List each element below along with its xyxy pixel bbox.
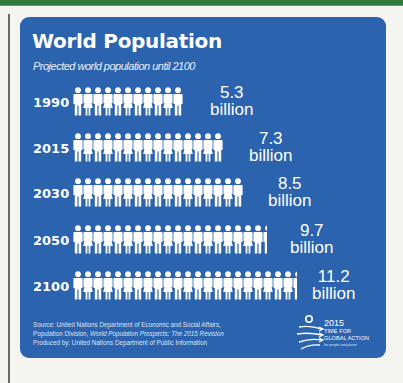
person-male-icon: [213, 271, 223, 300]
source-line-1: Source: United Nations Department of Eco…: [33, 320, 224, 329]
person-female-icon: [123, 133, 133, 162]
person-male-icon: [93, 271, 103, 300]
person-female-icon: [163, 133, 173, 162]
person-male-icon: [193, 133, 203, 162]
person-female-icon: [223, 225, 233, 254]
person-male-icon: [113, 178, 123, 207]
source-credit: Source: United Nations Department of Eco…: [33, 320, 224, 347]
person-male-icon: [113, 87, 123, 116]
person-female-icon: [103, 178, 113, 207]
person-male-icon: [193, 271, 203, 300]
person-icon-bar: [73, 224, 267, 254]
person-partial-icon: [263, 225, 267, 254]
person-male-icon: [173, 87, 183, 116]
logo-text: 2015 TIME FOR GLOBAL ACTION for people a…: [324, 318, 369, 349]
person-female-icon: [83, 271, 93, 300]
person-female-icon: [103, 87, 113, 116]
person-female-icon: [143, 178, 153, 207]
person-female-icon: [183, 271, 193, 300]
person-female-icon: [243, 271, 253, 300]
value-number: 7.3: [249, 130, 292, 147]
year-label: 2030: [33, 186, 69, 201]
person-female-icon: [103, 133, 113, 162]
chart-subtitle: Projected world population until 2100: [33, 60, 195, 72]
person-male-icon: [93, 225, 103, 254]
value-label: 5.3 billion: [210, 84, 253, 118]
person-male-icon: [233, 178, 243, 207]
source-line-2: Population Division, World Population Pr…: [33, 329, 224, 338]
person-icon-bar: [73, 177, 243, 207]
logo-line-2: GLOBAL ACTION: [324, 335, 369, 342]
person-female-icon: [83, 133, 93, 162]
person-female-icon: [183, 225, 193, 254]
value-number: 8.5: [268, 175, 311, 192]
source-line-3: Produced by: United Nations Department o…: [33, 338, 224, 347]
year-label: 1990: [33, 95, 69, 110]
person-female-icon: [123, 271, 133, 300]
value-label: 9.7 billion: [290, 222, 333, 256]
person-female-icon: [223, 178, 233, 207]
person-female-icon: [83, 178, 93, 207]
person-male-icon: [213, 225, 223, 254]
person-icon-bar: [73, 132, 223, 162]
value-number: 5.3: [210, 84, 253, 101]
person-icon-bar: [73, 270, 297, 300]
source-publication-title: World Population Prospects: The 2015 Rev…: [90, 330, 224, 337]
person-male-icon: [133, 271, 143, 300]
person-female-icon: [283, 271, 293, 300]
value-number: 9.7: [290, 222, 333, 239]
person-male-icon: [173, 133, 183, 162]
person-male-icon: [113, 133, 123, 162]
person-female-icon: [143, 271, 153, 300]
person-male-icon: [153, 225, 163, 254]
person-male-icon: [153, 87, 163, 116]
person-male-icon: [113, 225, 123, 254]
source-line-2-prefix: Population Division,: [33, 330, 90, 337]
person-icon-bar: [73, 86, 183, 116]
person-female-icon: [163, 178, 173, 207]
person-male-icon: [73, 178, 83, 207]
global-action-logo: 2015 TIME FOR GLOBAL ACTION for people a…: [296, 312, 384, 356]
person-female-icon: [203, 271, 213, 300]
person-partial-icon: [293, 271, 297, 300]
person-male-icon: [133, 225, 143, 254]
person-male-icon: [153, 133, 163, 162]
chart-title: World Population: [32, 29, 222, 53]
person-female-icon: [83, 87, 93, 116]
person-male-icon: [233, 225, 243, 254]
value-unit: billion: [268, 192, 311, 209]
value-number: 11.2: [312, 268, 355, 285]
person-female-icon: [183, 133, 193, 162]
person-male-icon: [253, 271, 263, 300]
value-label: 11.2 billion: [312, 268, 355, 302]
person-male-icon: [173, 225, 183, 254]
person-male-icon: [73, 133, 83, 162]
value-unit: billion: [249, 147, 292, 164]
year-label: 2050: [33, 233, 69, 248]
person-female-icon: [103, 225, 113, 254]
person-female-icon: [143, 87, 153, 116]
person-male-icon: [233, 271, 243, 300]
person-male-icon: [93, 133, 103, 162]
person-female-icon: [183, 178, 193, 207]
logo-tagline: for people and planet: [324, 342, 369, 349]
top-border-bar: [0, 0, 403, 6]
person-female-icon: [123, 178, 133, 207]
person-female-icon: [163, 271, 173, 300]
person-male-icon: [133, 133, 143, 162]
logo-year: 2015: [324, 318, 369, 328]
person-male-icon: [253, 225, 263, 254]
person-female-icon: [203, 178, 213, 207]
value-unit: billion: [290, 239, 333, 256]
person-male-icon: [213, 178, 223, 207]
person-female-icon: [123, 225, 133, 254]
person-female-icon: [83, 225, 93, 254]
person-male-icon: [73, 87, 83, 116]
year-label: 2100: [33, 279, 69, 294]
person-female-icon: [223, 271, 233, 300]
person-male-icon: [213, 133, 223, 162]
value-unit: billion: [312, 285, 355, 302]
person-female-icon: [163, 225, 173, 254]
person-male-icon: [173, 271, 183, 300]
person-male-icon: [133, 87, 143, 116]
